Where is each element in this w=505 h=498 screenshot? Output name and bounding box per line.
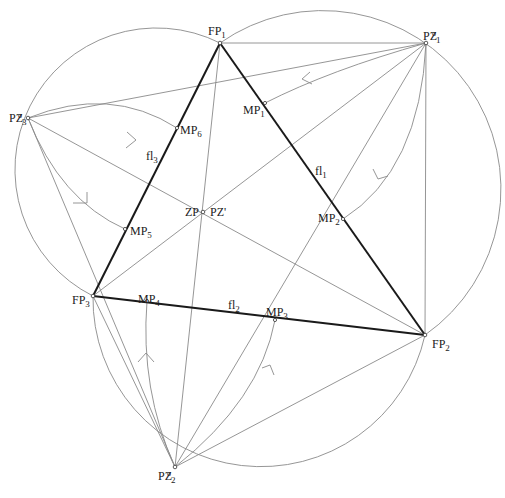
point-zp	[201, 210, 205, 214]
point-fp2	[423, 333, 427, 337]
line-pz1-fp3	[93, 43, 426, 296]
label-fp2: FP2	[432, 338, 450, 353]
point-pz2	[173, 465, 177, 469]
geometry-diagram	[0, 0, 505, 498]
circle-fp2-fp3	[93, 296, 425, 467]
arrowhead-icon	[126, 132, 136, 148]
label-pz-prime: PZ'	[210, 206, 226, 218]
label-mp2: MP2	[318, 212, 340, 227]
arc-pz2-mp4	[146, 301, 175, 467]
line-pz1-pz2	[175, 43, 426, 467]
side-fl3	[93, 43, 220, 296]
label-pz1: PZo1	[423, 30, 441, 45]
arrowhead-icon	[262, 365, 274, 375]
point-fp3	[91, 294, 95, 298]
label-fl3: fl3	[146, 150, 158, 165]
arc-pz1-mp2	[343, 43, 426, 219]
construction-lines	[28, 43, 426, 467]
label-pz3: PZo3	[9, 112, 27, 127]
line-fp1-pz2	[175, 43, 220, 467]
arc-pz3-mp5	[28, 118, 125, 229]
arc-pz1-mp1	[265, 43, 426, 103]
circle-fp1-fp3	[15, 28, 220, 296]
label-zp: ZP	[185, 206, 199, 218]
label-mp4: MP4	[138, 293, 160, 308]
line-fp3-pz2	[93, 296, 175, 467]
point-mp2	[341, 217, 344, 220]
line-fp2-pz2	[175, 335, 425, 467]
point-mp6	[175, 126, 178, 129]
point-fp1	[218, 41, 222, 45]
point-mp5	[123, 227, 126, 230]
arc-pz2-mp3	[175, 320, 275, 467]
label-mp1: MP1	[243, 104, 265, 119]
construction-circles	[15, 11, 501, 467]
label-mp6: MP6	[180, 124, 202, 139]
label-fp3: FP3	[72, 294, 90, 309]
arc-pz3-mp6	[28, 104, 177, 128]
line-pz1-fp2	[425, 43, 426, 335]
label-fl2: fl2	[228, 299, 240, 314]
points	[26, 41, 428, 469]
arrowhead-icon	[138, 353, 154, 362]
arrowhead-icon	[373, 169, 388, 179]
side-fl1	[220, 43, 425, 335]
label-mp5: MP5	[130, 225, 152, 240]
circle-fp1-fp2	[220, 11, 501, 335]
label-fp1: FP1	[208, 25, 226, 40]
label-pz2: PZo2	[158, 470, 176, 485]
label-fl1: fl1	[315, 165, 327, 180]
label-mp3: MP3	[266, 306, 288, 321]
